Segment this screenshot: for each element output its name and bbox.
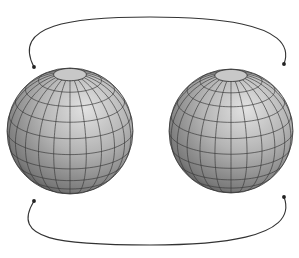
polar-cap <box>54 68 87 80</box>
spheres-layer <box>7 68 293 194</box>
polar-cap <box>215 69 247 81</box>
diagram-svg <box>0 0 299 258</box>
top-arrow <box>29 17 285 67</box>
bottom-arrow <box>28 197 286 245</box>
diagram-canvas <box>0 0 299 258</box>
left-sphere <box>7 68 133 194</box>
right-sphere <box>169 69 293 193</box>
